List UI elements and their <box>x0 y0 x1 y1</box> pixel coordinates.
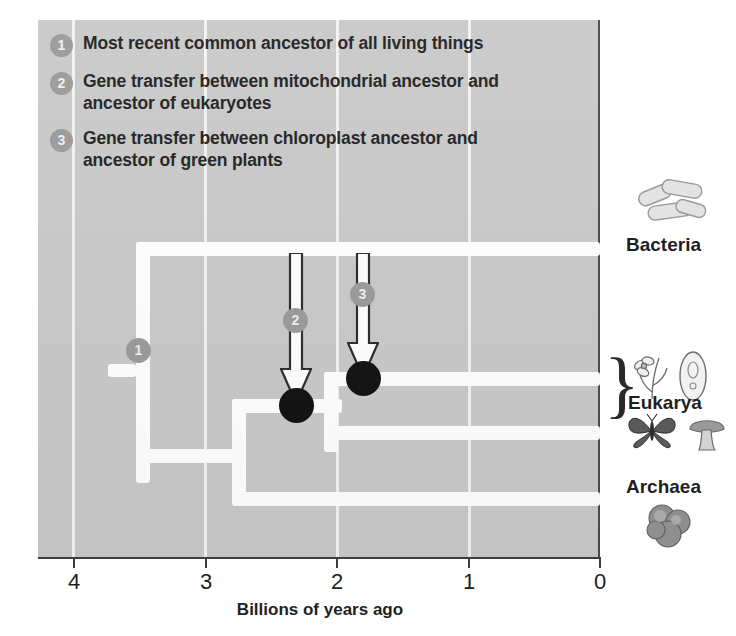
domain-label-archaea: Archaea <box>626 476 701 498</box>
legend-badge-3: 3 <box>50 129 73 152</box>
node-badge-1: 1 <box>126 338 151 363</box>
domain-label-bacteria: Bacteria <box>626 234 701 256</box>
arrow-badge-2: 2 <box>283 308 308 333</box>
branch-archaea <box>232 492 600 506</box>
x-tick-2 <box>336 557 338 568</box>
mushroom-icon <box>686 410 728 456</box>
legend-item-1: 1 Most recent common ancestor of all liv… <box>50 32 570 57</box>
archaea-icon <box>642 500 698 556</box>
arrow-badge-3: 3 <box>350 282 375 307</box>
event-dot-3 <box>346 361 381 396</box>
bacteria-icon <box>632 178 714 234</box>
butterfly-icon <box>626 412 678 454</box>
butterfly-icon <box>626 412 678 450</box>
legend-badge-1: 1 <box>50 34 73 57</box>
bacteria-rods-icon <box>632 178 714 230</box>
x-tick-4 <box>73 557 75 568</box>
x-tick-label-1: 1 <box>449 569 489 595</box>
legend: 1 Most recent common ancestor of all liv… <box>50 32 570 184</box>
x-tick-0 <box>599 557 601 568</box>
archaea-cell-cluster-icon <box>642 500 698 552</box>
branch-archaea-eukarya-vertical <box>232 399 246 505</box>
x-tick-1 <box>468 557 470 568</box>
phylogenetic-tree-figure: 1 Most recent common ancestor of all liv… <box>0 0 736 636</box>
legend-text-2: Gene transfer between mitochondrial ance… <box>83 70 503 114</box>
x-axis-line <box>38 557 601 559</box>
branch-root-lower <box>136 449 246 463</box>
x-tick-label-3: 3 <box>186 569 226 595</box>
legend-text-1: Most recent common ancestor of all livin… <box>83 32 483 54</box>
event-dot-2 <box>279 388 314 423</box>
x-tick-label-0: 0 <box>580 569 620 595</box>
branch-eukarya-lower <box>324 426 600 440</box>
branch-root-stub <box>108 364 136 377</box>
mushroom-fungus-icon <box>686 410 728 452</box>
legend-badge-2: 2 <box>50 72 73 95</box>
x-tick-3 <box>205 557 207 568</box>
legend-item-2: 2 Gene transfer between mitochondrial an… <box>50 70 570 114</box>
x-axis-title: Billions of years ago <box>0 600 640 620</box>
x-tick-label-2: 2 <box>317 569 357 595</box>
domain-label-eukarya: Eukarya <box>628 392 702 414</box>
legend-text-3: Gene transfer between chloroplast ancest… <box>83 127 483 171</box>
plot-right-border <box>598 20 600 557</box>
plot-area: 1 Most recent common ancestor of all liv… <box>38 20 600 557</box>
legend-item-3: 3 Gene transfer between chloroplast ance… <box>50 127 570 171</box>
x-tick-label-4: 4 <box>54 569 94 595</box>
